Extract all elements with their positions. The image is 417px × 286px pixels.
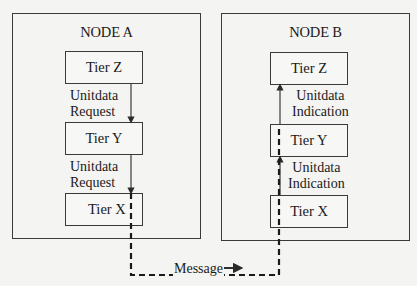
message-path [131, 128, 279, 275]
message-label: Message [173, 261, 224, 277]
connectors [0, 0, 417, 286]
